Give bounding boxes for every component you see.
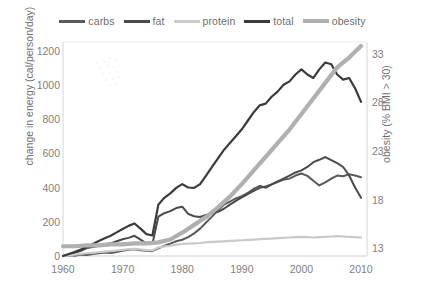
watermark-artifact — [96, 57, 121, 86]
series-lines — [63, 46, 361, 256]
axis-frame — [63, 42, 367, 256]
chart-container: carbs fat protein total obesity change i… — [0, 0, 425, 299]
plot-area — [0, 0, 425, 299]
